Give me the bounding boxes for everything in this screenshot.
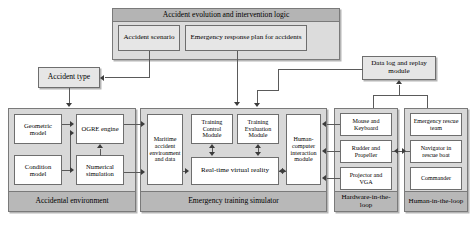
node-data-log-replay[interactable]: Data log and replay module: [362, 56, 436, 80]
arrowhead-tcm-to-vr: [209, 152, 215, 156]
node-condition-model[interactable]: Condition model: [14, 155, 62, 185]
arrowhead-mouse-to-hci: [322, 121, 326, 127]
arrowhead-hardware-to-human: [402, 148, 406, 154]
arrowhead-projector-to-hci: [322, 175, 326, 181]
arrowhead-vr-to-hci: [282, 168, 286, 174]
connector-ogre-to-maritime: [124, 124, 141, 125]
connector-projector-to-hci: [327, 178, 340, 179]
node-mouse-and-keyboard[interactable]: Mouse and Keyboard: [340, 113, 392, 136]
connector-human-bus-vertical: [427, 95, 428, 108]
group-accidental-environment-footer: Accidental environment: [8, 191, 136, 212]
arrowhead-ogre-to-maritime: [141, 121, 145, 127]
connector-mouse-to-hci: [327, 124, 340, 125]
node-maritime-accident-environment-data[interactable]: Maritime accident environment and data: [147, 114, 183, 185]
node-accident-type[interactable]: Accident type: [38, 67, 100, 88]
node-commander[interactable]: Commander: [410, 167, 462, 190]
arrowhead-into-accident-type: [100, 75, 104, 81]
connector-bus-to-datalog: [399, 85, 400, 96]
arrowhead-human-to-hardware: [394, 148, 398, 154]
node-emergency-response-plan[interactable]: Emergency response plan for accidents: [185, 25, 307, 51]
group-emergency-training-simulator-footer: Emergency training simulator: [140, 191, 327, 212]
node-emergency-rescue-team[interactable]: Emergency rescue team: [410, 113, 462, 136]
connector-condition-to-ogre-v: [70, 133, 71, 171]
node-real-time-virtual-reality[interactable]: Real-time virtual reality: [191, 157, 279, 185]
group-hardware-in-the-loop-footer: Hardware-in-the-loop: [334, 191, 398, 212]
node-projector-and-vga[interactable]: Projector and VGA: [340, 167, 392, 190]
arrowhead-vr-to-tcm: [209, 144, 215, 148]
arrowhead-condition-to-numerical: [70, 167, 74, 173]
connector-numerical-to-maritime: [124, 172, 141, 173]
connector-rudder-to-hci: [327, 151, 340, 152]
node-human-computer-interaction-module[interactable]: Human-computer interaction module: [286, 114, 321, 185]
connector-hardware-bus-vertical: [373, 95, 374, 108]
arrowhead-into-simulator: [234, 102, 240, 106]
node-geometric-model[interactable]: Geometric model: [14, 114, 62, 144]
connector-scenario-to-type-horizontal: [105, 77, 150, 78]
connector-datalog-out-vertical-1: [278, 69, 279, 90]
connector-scenario-to-type-vertical: [149, 51, 150, 78]
connector-type-to-accidental-env: [69, 88, 70, 104]
arrowhead-rudder-to-hci: [322, 148, 326, 154]
connector-datalog-out-horizontal-2: [257, 90, 279, 91]
arrowhead-tem-to-vr: [255, 152, 261, 156]
node-training-evaluation-module[interactable]: Training Evaluation Module: [237, 114, 279, 144]
arrowhead-condition-to-ogre: [70, 130, 74, 136]
arrowhead-numerical-to-ogre: [97, 144, 103, 148]
connector-numerical-to-ogre: [100, 149, 101, 156]
node-rudder-and-propeller[interactable]: Rudder and Propeller: [340, 140, 392, 163]
group-accident-evolution-header: Accident evolution and intervention logi…: [112, 8, 340, 22]
connector-datalog-out-vertical-2: [257, 90, 258, 104]
node-ogre-engine[interactable]: OGRE engine: [76, 114, 124, 144]
arrowhead-vr-to-tem: [255, 144, 261, 148]
connector-datalog-out-horizontal: [278, 69, 363, 70]
arrowhead-into-accidental-env: [66, 103, 72, 107]
node-numerical-simulation[interactable]: Numerical simulation: [76, 155, 124, 185]
connector-loops-bus-horizontal: [373, 95, 428, 96]
arrowhead-geometric-to-ogre: [70, 121, 74, 127]
arrowhead-datalog-into-simulator: [254, 103, 260, 107]
node-accident-scenario[interactable]: Accident scenario: [118, 25, 180, 51]
arrowhead-into-datalog: [396, 80, 402, 84]
diagram-canvas: Accident evolution and intervention logi…: [0, 0, 475, 229]
arrowhead-numerical-to-maritime: [141, 169, 145, 175]
node-training-control-module[interactable]: Training Control Module: [191, 114, 233, 144]
connector-plan-to-simulator: [237, 51, 238, 103]
group-human-in-the-loop-footer: Human-in-the-loop: [404, 191, 468, 212]
node-navigator-in-rescue-boat[interactable]: Navigator in rescue boat: [410, 140, 462, 163]
arrowhead-maritime-to-vr: [185, 168, 189, 174]
